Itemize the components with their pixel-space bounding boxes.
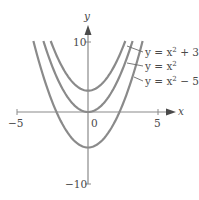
y-axis-arrow-icon xyxy=(85,25,92,35)
chart: y = x2 + 3 y = x2 y = x2 − 5 y x −5 0 5 … xyxy=(0,0,199,200)
x-tick-label-0: 0 xyxy=(91,117,98,129)
label-x2-plus-3: y = x2 + 3 xyxy=(144,46,199,58)
chart-svg: y = x2 + 3 y = x2 y = x2 − 5 y x −5 0 5 … xyxy=(0,0,199,200)
leader-x2-minus-5 xyxy=(134,77,143,81)
x-axis-arrow-icon xyxy=(166,109,176,116)
label-x2-minus-5: y = x2 − 5 xyxy=(144,75,199,87)
y-tick-label-10: 10 xyxy=(73,36,86,48)
x-axis-label: x xyxy=(178,105,184,117)
y-tick-label-neg10: −10 xyxy=(65,178,87,190)
x-tick-label-neg5: −5 xyxy=(8,117,23,129)
x-tick-label-5: 5 xyxy=(154,117,161,129)
y-axis-label: y xyxy=(83,10,91,22)
label-x2: y = x2 xyxy=(144,60,177,72)
